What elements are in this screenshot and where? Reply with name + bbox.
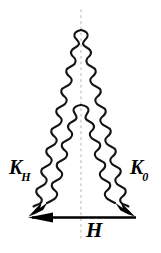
inner-triangle-right-wave: [81, 105, 115, 203]
inner-triangle-left-wave: [47, 105, 81, 203]
label-k-sub-h: KH: [9, 157, 32, 180]
diagram-canvas: [0, 0, 161, 253]
label-h-vector-base: H: [86, 218, 102, 242]
label-k-sub-h-subscript: H: [21, 170, 30, 184]
label-k-sub-zero-subscript: 0: [142, 170, 148, 184]
label-k-sub-zero: K0: [130, 157, 149, 180]
label-h-vector: H: [86, 220, 102, 241]
scattering-diagram-figure: KH K0 H: [0, 0, 161, 253]
